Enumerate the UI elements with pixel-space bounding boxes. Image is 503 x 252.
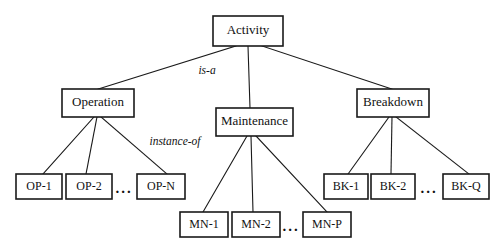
node-label-op-2: OP-2 xyxy=(76,179,101,193)
op-ellipsis: ... xyxy=(115,180,132,196)
node-label-bk-1: BK-1 xyxy=(333,179,360,193)
node-label-operation: Operation xyxy=(72,94,124,109)
node-label-maintenance: Maintenance xyxy=(221,113,288,128)
node-mn-1[interactable]: MN-1 xyxy=(180,212,228,237)
edge-label-is-a: is-a xyxy=(198,64,216,76)
taxonomy-diagram: ActivityOperationMaintenanceBreakdownOP-… xyxy=(0,0,503,252)
node-label-bk-2: BK-2 xyxy=(380,179,407,193)
mn-ellipsis: ... xyxy=(282,218,299,234)
node-bk-1[interactable]: BK-1 xyxy=(324,174,368,199)
node-operation[interactable]: Operation xyxy=(62,89,134,117)
edge-maintenance-mnp xyxy=(256,136,327,212)
node-bk-q[interactable]: BK-Q xyxy=(443,174,489,199)
edge-breakdown-bk1 xyxy=(348,117,389,174)
edge-operation-op1 xyxy=(43,117,94,174)
node-label-op-1: OP-1 xyxy=(26,179,51,193)
edge-operation-op2 xyxy=(86,117,97,174)
node-label-op-n: OP-N xyxy=(147,179,175,193)
node-breakdown[interactable]: Breakdown xyxy=(357,89,429,117)
node-op-2[interactable]: OP-2 xyxy=(66,174,112,199)
node-op-n[interactable]: OP-N xyxy=(137,174,185,199)
node-label-bk-q: BK-Q xyxy=(451,179,481,193)
node-label-breakdown: Breakdown xyxy=(363,94,423,109)
node-bk-2[interactable]: BK-2 xyxy=(371,174,415,199)
edge-labels-layer: is-ainstance-of xyxy=(149,64,215,148)
edge-breakdown-bkq xyxy=(396,117,469,174)
edge-maintenance-mn2 xyxy=(251,136,253,212)
node-maintenance[interactable]: Maintenance xyxy=(216,108,293,136)
taxonomy-canvas: ActivityOperationMaintenanceBreakdownOP-… xyxy=(0,0,503,252)
node-label-mn-2: MN-2 xyxy=(241,217,270,231)
node-activity[interactable]: Activity xyxy=(213,16,283,46)
edge-activity-maintenance xyxy=(248,46,250,108)
node-label-mn-1: MN-1 xyxy=(189,217,218,231)
bk-ellipsis: ... xyxy=(420,180,437,196)
node-label-mn-p: MN-P xyxy=(312,217,342,231)
edge-breakdown-bk2 xyxy=(391,117,392,174)
edge-label-instance-of: instance-of xyxy=(149,135,202,148)
edge-activity-breakdown xyxy=(262,46,392,89)
node-op-1[interactable]: OP-1 xyxy=(16,174,62,199)
node-mn-p[interactable]: MN-P xyxy=(303,212,351,237)
node-mn-2[interactable]: MN-2 xyxy=(232,212,280,237)
node-label-activity: Activity xyxy=(227,22,270,37)
edge-maintenance-mn1 xyxy=(203,136,247,212)
